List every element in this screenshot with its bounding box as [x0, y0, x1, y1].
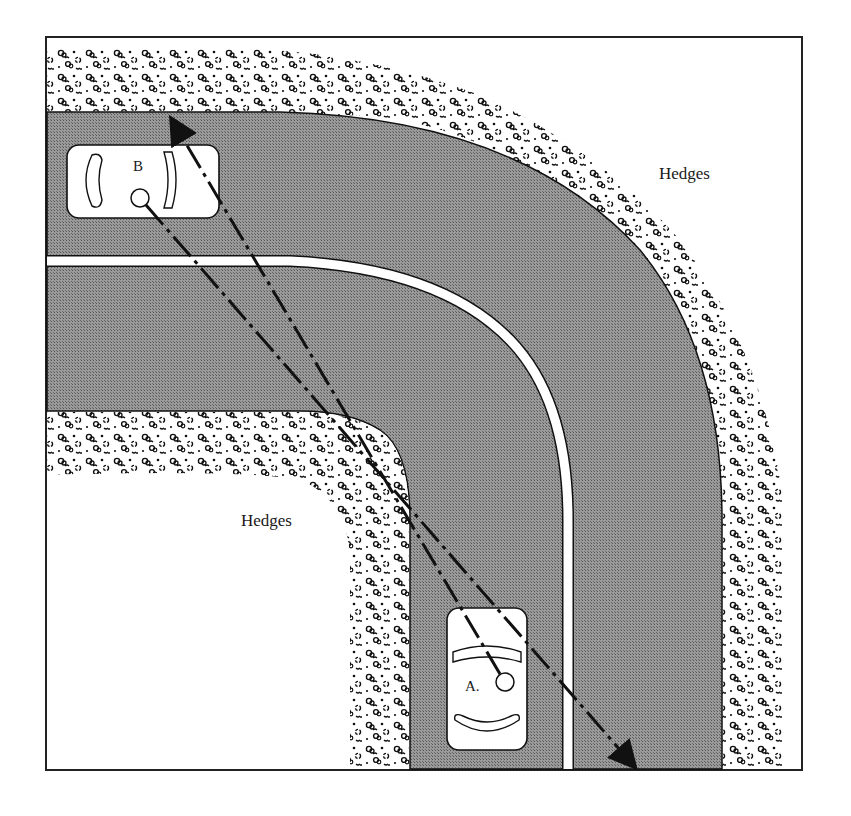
- driver-b-marker: [131, 189, 149, 207]
- hedges-label-outer: Hedges: [659, 164, 710, 184]
- car-b-label: B: [133, 158, 143, 175]
- car-a-label: A.: [465, 678, 480, 695]
- road-curve-diagram: [0, 0, 851, 816]
- car-b: [67, 145, 219, 218]
- hedges-label-inner: Hedges: [241, 511, 292, 531]
- driver-a-marker: [496, 673, 514, 691]
